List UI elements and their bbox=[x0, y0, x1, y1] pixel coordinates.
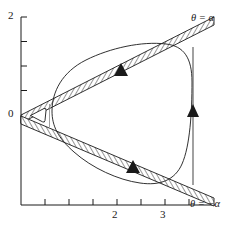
x-axis-ticks bbox=[45, 199, 189, 205]
x-axis-label-2: 2 bbox=[112, 209, 118, 220]
lower-boundary-label: θ = −α bbox=[190, 199, 220, 210]
figure-root: 2 0 2 3 θ = α θ = −α bbox=[0, 0, 233, 239]
vertical-trajectory-arrow bbox=[187, 104, 199, 117]
lower-boundary-band bbox=[21, 116, 214, 206]
y-axis-ticks bbox=[21, 17, 27, 115]
x-axis-label-3: 3 bbox=[160, 209, 166, 220]
axis-lines bbox=[21, 17, 215, 205]
upper-boundary-label: θ = α bbox=[191, 13, 214, 24]
y-axis-label-2: 2 bbox=[8, 10, 14, 21]
y-axis-label-0: 0 bbox=[8, 108, 14, 119]
